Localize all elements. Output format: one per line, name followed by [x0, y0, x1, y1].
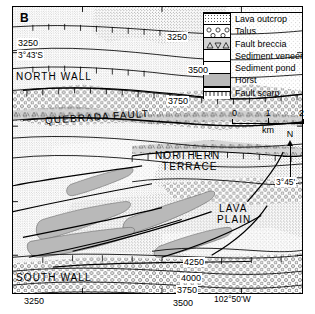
legend-label: Horst: [235, 74, 257, 86]
contour-3250-top: 3250: [166, 32, 188, 42]
north-arrow: N: [282, 130, 298, 182]
south-wall: SOUTH WALL: [16, 272, 92, 283]
legend-swatch-solid-gray: [203, 74, 231, 86]
north-wall: NORTH WALL: [16, 71, 92, 82]
contour-3250-bottom: 3250: [23, 296, 45, 306]
contour-3500-bottom: 3500: [172, 298, 194, 308]
scale-bar-line: [232, 119, 304, 124]
latitude-3-45: 3°45': [275, 177, 296, 187]
scale-tick-1: 1: [265, 108, 270, 118]
legend-swatch-fine-stipple: [203, 50, 231, 62]
panel-letter: B: [20, 11, 29, 25]
contour-4250-bottom: 4250: [183, 257, 205, 267]
legend: Lava outcropTalusFault brecciaSediment v…: [203, 12, 303, 99]
northern-terrace-line1: NORTHERN: [155, 150, 220, 161]
legend-label: Fault breccia: [235, 38, 287, 50]
lava-plain-line2: PLAIN: [217, 214, 251, 225]
legend-label: Fault scarp: [235, 87, 280, 99]
contour-3250-left: 3250: [17, 38, 39, 48]
north-arrow-glyph-icon: [282, 140, 298, 182]
scale-bar-midtick: [268, 118, 269, 123]
legend-label: Sediment pond: [235, 62, 296, 74]
legend-swatch-circles: [203, 25, 231, 37]
legend-swatch-dense-stipple: [203, 13, 231, 25]
contour-3500-top: 3500: [187, 65, 209, 75]
scale-tick-0: 0: [232, 108, 237, 118]
figure-root: B Lava outcropTalusFault brecciaSediment…: [0, 0, 315, 314]
contour-4000-bottom: 4000: [180, 273, 202, 283]
legend-item-sediment-veneer: Sediment veneer: [203, 50, 303, 62]
latitude-3-43-s: 3°43'S: [17, 50, 44, 60]
legend-item-lava-outcrop: Lava outcrop: [203, 13, 303, 25]
legend-item-fault-scarp: Fault scarp: [203, 87, 303, 99]
scale-tick-2: 2: [299, 108, 304, 118]
scale-bar-ticks: 0 1 2: [232, 108, 304, 118]
longitude-102-50-w: 102°50'W: [213, 294, 252, 304]
legend-item-talus: Talus: [203, 25, 303, 37]
legend-item-horst: Horst: [203, 74, 303, 86]
legend-label: Sediment veneer: [235, 50, 303, 62]
legend-label: Talus: [235, 25, 256, 37]
legend-label: Lava outcrop: [235, 13, 287, 25]
legend-item-sediment-pond: Sediment pond: [203, 62, 303, 74]
legend-rows: Lava outcropTalusFault brecciaSediment v…: [203, 12, 303, 99]
legend-item-fault-breccia: Fault breccia: [203, 38, 303, 50]
legend-swatch-triangles: [203, 38, 231, 50]
contour-3750-top: 3750: [167, 96, 189, 106]
legend-swatch-hachured-line: [203, 87, 231, 99]
contour-3750-bottom: 3750: [176, 285, 198, 295]
lava-plain-line1: LAVA: [219, 203, 248, 214]
north-arrow-label: N: [282, 130, 298, 139]
north-arrow-crossbar-icon: [283, 156, 297, 157]
northern-terrace-line2: TERRACE: [162, 161, 217, 172]
